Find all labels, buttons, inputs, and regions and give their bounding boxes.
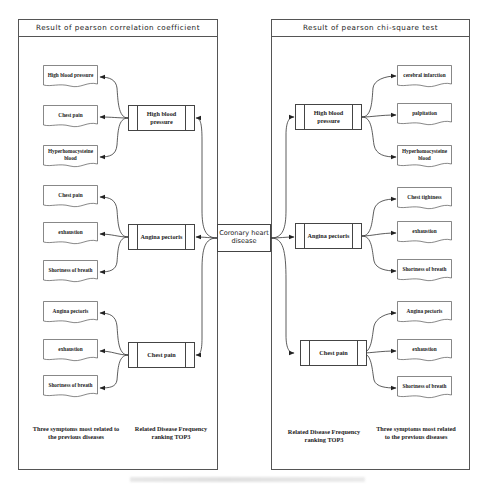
right-symptom-box: palpitation <box>397 103 452 127</box>
right-symptom-box: exhaustion <box>397 221 452 245</box>
left-ranking-footer-label: Related Disease Frequency ranking TOP3 <box>134 425 208 441</box>
left-symptom-box: Angina pectoris <box>43 301 98 325</box>
right-symptom-box: cerebral infarction <box>397 65 452 89</box>
left-disease-box: Chest pain <box>128 342 195 368</box>
center-disease-box: Coronary heart disease <box>217 224 271 252</box>
left-disease-box: Angina pectoris <box>128 224 195 250</box>
right-symptom-box: Hyperhomocysteine blood <box>397 145 452 169</box>
left-symptom-box: Chest pain <box>43 105 98 129</box>
left-panel-title: Result of pearson correlation coefficien… <box>19 20 217 37</box>
right-disease-box: Angina pectoris <box>295 223 362 249</box>
figure-caption-illegible <box>130 477 365 482</box>
left-symptom-box: exhaustion <box>43 339 98 363</box>
right-symptom-box: Shortness of breath <box>397 259 452 283</box>
right-disease-box: High blood pressure <box>295 104 362 130</box>
left-symptom-box: Shortness of breath <box>43 375 98 399</box>
left-symptom-box: Shortness of breath <box>43 260 98 284</box>
right-symptom-box: Shortness of breath <box>397 376 452 400</box>
left-disease-box: High blood pressure <box>128 105 195 131</box>
right-symptoms-footer-label: Three symptoms most related to the previ… <box>373 425 459 441</box>
right-panel-title: Result of pearson chi-square test <box>272 20 469 37</box>
left-symptoms-footer-label: Three symptoms most related to the previ… <box>32 425 120 441</box>
right-symptom-box: Chest tightness <box>397 187 452 211</box>
left-symptom-box: High blood pressure <box>43 65 98 89</box>
left-symptom-box: Chest pain <box>43 185 98 209</box>
left-symptom-box: exhaustion <box>43 222 98 246</box>
right-symptom-box: Angina pectoris <box>397 301 452 325</box>
right-disease-box: Chest pain <box>300 340 367 366</box>
left-symptom-box: Hyperhomocysteine blood <box>43 145 98 169</box>
right-symptom-box: exhaustion <box>397 339 452 363</box>
right-ranking-footer-label: Related Disease Frequency ranking TOP3 <box>287 428 361 444</box>
